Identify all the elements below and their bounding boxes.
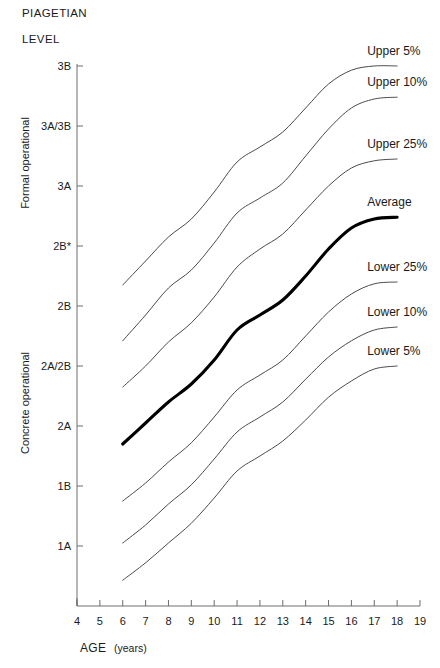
x-tick-label: 14 xyxy=(300,615,312,627)
y-tick-label: 2A xyxy=(58,420,72,432)
x-tick-label: 8 xyxy=(165,615,171,627)
curve-average xyxy=(123,217,397,444)
stage-label-concrete-operational: Concrete operational xyxy=(19,352,31,454)
y-tick-label: 2B* xyxy=(53,240,71,252)
x-axis-ticks xyxy=(77,598,420,606)
x-tick-label: 18 xyxy=(391,615,403,627)
piagetian-level-chart: PIAGETIAN LEVEL 3B3A/3B3A2B*2B2A/2B2A1B1… xyxy=(0,0,440,668)
x-axis-title: AGE xyxy=(80,641,106,655)
curve-label-lower-25: Lower 25% xyxy=(367,260,427,274)
y-tick-label: 2B xyxy=(58,300,71,312)
chart-canvas: PIAGETIAN LEVEL 3B3A/3B3A2B*2B2A/2B2A1B1… xyxy=(0,0,440,668)
y-tick-label: 3A/3B xyxy=(41,120,71,132)
curve-lower-10 xyxy=(123,327,397,543)
x-tick-label: 5 xyxy=(97,615,103,627)
x-tick-label: 16 xyxy=(345,615,357,627)
x-tick-label: 17 xyxy=(368,615,380,627)
y-axis-ticks xyxy=(77,66,83,546)
x-tick-label: 9 xyxy=(188,615,194,627)
x-tick-label: 19 xyxy=(414,615,426,627)
x-axis-tick-labels: 45678910111213141516171819 xyxy=(74,615,426,627)
y-axis-tick-labels: 3B3A/3B3A2B*2B2A/2B2A1B1A xyxy=(41,60,72,552)
y-tick-label: 3A xyxy=(58,180,72,192)
x-tick-label: 11 xyxy=(231,615,242,627)
x-tick-label: 6 xyxy=(120,615,126,627)
curve-label-average: Average xyxy=(367,195,412,209)
curve-label-lower-5: Lower 5% xyxy=(367,344,421,358)
x-tick-label: 12 xyxy=(254,615,266,627)
curve-label-upper-25: Upper 25% xyxy=(367,137,427,151)
curve-label-lower-10: Lower 10% xyxy=(367,305,427,319)
x-tick-label: 15 xyxy=(322,615,334,627)
y-tick-label: 1A xyxy=(58,540,72,552)
x-tick-label: 7 xyxy=(143,615,149,627)
curve-label-upper-10: Upper 10% xyxy=(367,75,427,89)
x-tick-label: 13 xyxy=(277,615,289,627)
x-axis-title-unit: (years) xyxy=(114,642,147,654)
chart-title-line1: PIAGETIAN xyxy=(22,7,87,19)
x-tick-label: 10 xyxy=(208,615,220,627)
curve-upper-5 xyxy=(123,66,397,285)
x-tick-label: 4 xyxy=(74,615,80,627)
y-tick-label: 1B xyxy=(58,480,71,492)
curve-label-upper-5: Upper 5% xyxy=(367,44,421,58)
y-tick-label: 3B xyxy=(58,60,71,72)
curve-lower-5 xyxy=(123,366,397,580)
curve-labels: Upper 5%Upper 10%Upper 25%AverageLower 2… xyxy=(367,44,427,358)
curve-upper-10 xyxy=(123,97,397,341)
y-tick-label: 2A/2B xyxy=(41,360,71,372)
stage-label-formal-operational: Formal operational xyxy=(19,117,31,209)
percentile-curves xyxy=(123,66,397,581)
curve-upper-25 xyxy=(123,159,397,387)
chart-title-line2: LEVEL xyxy=(22,33,60,45)
